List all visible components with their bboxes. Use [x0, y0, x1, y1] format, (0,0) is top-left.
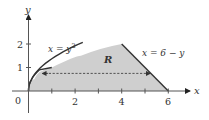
y-axis-label: y: [24, 4, 31, 15]
region-diagram: y x 0 2 4 6 1 2 x = y2 R x = 6 − y: [0, 0, 209, 120]
y-tick-label-2: 2: [17, 39, 23, 50]
x-axis-label: x: [194, 85, 200, 96]
x-tick-label-4: 4: [119, 96, 125, 107]
x-tick-label-6: 6: [165, 96, 171, 107]
curve-right-label: x = 6 − y: [142, 48, 185, 58]
origin-label: 0: [15, 95, 21, 106]
x-tick-label-2: 2: [72, 96, 78, 107]
region-label: R: [103, 54, 112, 65]
curve-left-label: x = y2: [48, 42, 76, 54]
y-tick-label-1: 1: [17, 62, 23, 73]
curve-left-exponent: 2: [71, 42, 75, 50]
